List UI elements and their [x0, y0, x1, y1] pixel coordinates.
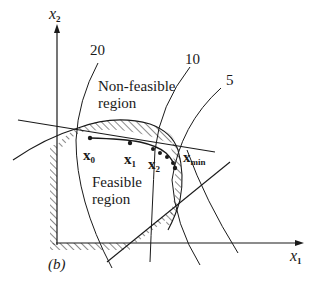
point-xmin	[173, 166, 177, 170]
point-x1	[128, 141, 132, 145]
point-x5	[171, 161, 175, 165]
diagram-canvas	[0, 0, 318, 286]
non-feasible-region-label: Non-feasible region	[98, 78, 175, 112]
contour-label-10: 10	[185, 52, 200, 67]
feasible-region-label: Feasible region	[92, 174, 142, 208]
x1-axis-arrowhead-icon	[295, 240, 304, 246]
point-x2	[151, 147, 155, 151]
point-label-x2: x2	[148, 157, 160, 174]
point-x4	[165, 155, 169, 159]
contour-label-20: 20	[90, 43, 105, 58]
panel-label: (b)	[48, 257, 66, 272]
contour-label-5: 5	[226, 73, 234, 88]
x2-axis-arrowhead-icon	[54, 24, 60, 33]
point-label-x1: x1	[124, 152, 136, 169]
point-x3	[158, 151, 162, 155]
point-label-x0: x0	[83, 148, 95, 165]
point-x0	[88, 136, 92, 140]
optimization-diagram: x2 x1 20 10 5 Non-feasible region Feasib…	[0, 0, 318, 286]
x1-axis-label: x1	[290, 248, 302, 266]
point-label-xmin: xmin	[183, 150, 206, 167]
x2-axis-label: x2	[49, 6, 61, 24]
